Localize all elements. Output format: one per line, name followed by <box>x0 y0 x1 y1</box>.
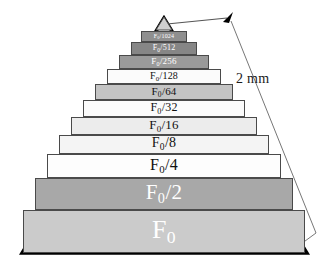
tier-label-divisor: /128 <box>159 70 178 81</box>
tier-label-symbol: F <box>151 56 156 66</box>
tier-label-symbol: F <box>146 180 158 204</box>
tier-tier-1024: F0/1024 <box>141 31 187 42</box>
tier-apex-shape <box>156 17 172 30</box>
tier-tier-128: F0/128 <box>107 69 221 84</box>
tier-label-divisor: /512 <box>160 43 175 52</box>
tier-label-divisor: /64 <box>162 85 177 97</box>
tier-tier-32: F0/32 <box>83 100 245 117</box>
tier-label: F0/8 <box>152 136 176 152</box>
pyramid-figure: F0/1024F0/512F0/256F0/128F0/64F0/32F0/16… <box>0 0 333 262</box>
tier-tier-512: F0/512 <box>131 42 197 55</box>
tier-label-symbol: F <box>150 156 159 173</box>
tier-label-divisor: /256 <box>160 56 177 66</box>
tier-label-divisor: /8 <box>165 135 176 150</box>
tier-tier-base: F0 <box>23 210 305 253</box>
scale-arrow-shaft <box>167 18 227 24</box>
tier-label: F0/16 <box>149 118 178 133</box>
tier-label-symbol: F <box>152 135 160 150</box>
tier-tier-64: F0/64 <box>95 84 233 100</box>
tier-label-symbol: F <box>150 70 156 81</box>
tier-tier-16: F0/16 <box>71 117 257 135</box>
tier-label: F0/4 <box>150 157 178 175</box>
tier-label-symbol: F <box>149 117 156 132</box>
tier-tier-8: F0/8 <box>59 135 269 154</box>
tier-tier-256: F0/256 <box>119 55 209 69</box>
tier-label-symbol: F <box>152 215 167 244</box>
tier-label: F0/64 <box>151 86 176 99</box>
scale-annotation-label: 2 mm <box>236 71 269 87</box>
tier-label-divisor: /2 <box>165 180 182 204</box>
tier-label: F0/128 <box>150 71 178 83</box>
tier-label-divisor: /32 <box>162 100 178 114</box>
tier-label-divisor: /4 <box>165 156 178 173</box>
tier-label-symbol: F <box>151 85 157 97</box>
tier-label-divisor: /16 <box>162 117 179 132</box>
tier-tier-apex <box>155 16 173 31</box>
tier-label-divisor: /1024 <box>160 33 175 39</box>
tier-label: F0/32 <box>150 101 177 115</box>
tier-tier-2: F0/2 <box>35 178 293 210</box>
tier-label-subscript: 0 <box>167 227 176 247</box>
tier-label: F0/512 <box>153 44 176 53</box>
tier-label: F0 <box>152 217 176 247</box>
tier-label: F0/256 <box>151 57 176 67</box>
tier-label: F0/2 <box>146 182 182 205</box>
tier-tier-4: F0/4 <box>47 154 281 178</box>
tier-label: F0/1024 <box>154 33 175 40</box>
